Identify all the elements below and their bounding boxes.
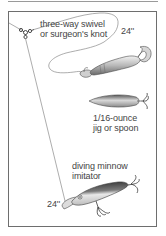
jig-label-line1: 1/16-ounce [93, 113, 138, 123]
swivel-label-line2: or surgeon's knot [40, 29, 107, 39]
jig-label: 1/16-ounce jig or spoon [93, 113, 138, 133]
spoon-lure-icon [89, 93, 148, 109]
upper-leader-length-label: 24'' [121, 26, 134, 36]
jig-label-line2: jig or spoon [93, 123, 138, 133]
minnow-label: diving minnow imitator [72, 161, 128, 181]
diving-minnow-lure-icon [62, 175, 139, 216]
swivel-label: three-way swivel or surgeon's knot [40, 19, 107, 39]
main-line [9, 23, 23, 31]
minnow-label-line1: diving minnow [72, 161, 128, 171]
swivel-label-line1: three-way swivel [40, 19, 107, 29]
minnow-label-line2: imitator [72, 171, 128, 181]
lower-leader-length-label: 24'' [47, 199, 60, 209]
grub-lure-icon [80, 46, 151, 77]
lower-leader [26, 39, 67, 205]
